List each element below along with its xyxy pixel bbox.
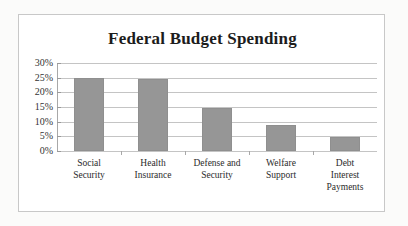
y-axis-tick-mark — [57, 78, 61, 79]
y-axis-tick-label: 30% — [19, 58, 53, 68]
y-axis-tick-mark — [57, 107, 61, 108]
bar[interactable] — [202, 108, 232, 151]
x-axis-tick-mark — [121, 151, 122, 155]
gridline — [57, 63, 377, 64]
gridline — [57, 92, 377, 93]
category-label-line: Support — [249, 169, 313, 181]
chart-frame: Federal Budget Spending 30%25%20%15%10%5… — [18, 14, 385, 212]
bar[interactable] — [138, 79, 168, 151]
y-axis-tick-mark — [57, 63, 61, 64]
category-label-line: Security — [57, 169, 121, 181]
y-axis-tick-mark — [57, 122, 61, 123]
chart-screenshot: Federal Budget Spending 30%25%20%15%10%5… — [0, 0, 408, 226]
x-axis-tick-mark — [313, 151, 314, 155]
x-axis-category-label: SocialSecurity — [57, 157, 121, 181]
x-axis-tick-mark — [185, 151, 186, 155]
gridline — [57, 151, 377, 152]
y-axis-tick-mark — [57, 136, 61, 137]
y-axis-tick-mark — [57, 92, 61, 93]
x-axis-tick-mark — [249, 151, 250, 155]
x-axis-category-label: HealthInsurance — [121, 157, 185, 181]
y-axis-tick-labels: 30%25%20%15%10%5%0% — [19, 63, 53, 151]
plot-area — [57, 63, 377, 151]
x-axis-category-labels: SocialSecurityHealthInsuranceDefense and… — [57, 157, 377, 213]
y-axis-tick-label: 10% — [19, 117, 53, 127]
category-label-line: Insurance — [121, 169, 185, 181]
category-label-line: Payments — [313, 181, 377, 193]
category-label-line: Security — [185, 169, 249, 181]
x-axis-category-label: Defense andSecurity — [185, 157, 249, 181]
y-axis-tick-mark — [57, 151, 61, 152]
category-label-line: Social — [57, 157, 121, 169]
y-axis-tick-label: 15% — [19, 102, 53, 112]
y-axis-tick-label: 20% — [19, 87, 53, 97]
category-label-line: Interest — [313, 169, 377, 181]
x-axis-category-label: WelfareSupport — [249, 157, 313, 181]
bar[interactable] — [74, 78, 104, 151]
y-axis-tick-label: 5% — [19, 131, 53, 141]
category-label-line: Debt — [313, 157, 377, 169]
x-axis-category-label: DebtInterestPayments — [313, 157, 377, 193]
bar[interactable] — [330, 137, 360, 151]
gridline — [57, 78, 377, 79]
bar[interactable] — [266, 125, 296, 151]
category-label-line: Defense and — [185, 157, 249, 169]
category-label-line: Health — [121, 157, 185, 169]
category-label-line: Welfare — [249, 157, 313, 169]
y-axis-tick-label: 0% — [19, 146, 53, 156]
y-axis-tick-label: 25% — [19, 73, 53, 83]
chart-title: Federal Budget Spending — [19, 29, 386, 49]
